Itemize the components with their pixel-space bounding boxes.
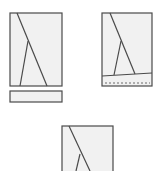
figure-1-bottom-bar [10,91,62,102]
figure-1-panel [10,13,62,86]
figure-1 [10,13,62,102]
diagram-canvas [0,0,156,171]
figure-3 [62,126,113,171]
figure-2 [102,13,152,86]
